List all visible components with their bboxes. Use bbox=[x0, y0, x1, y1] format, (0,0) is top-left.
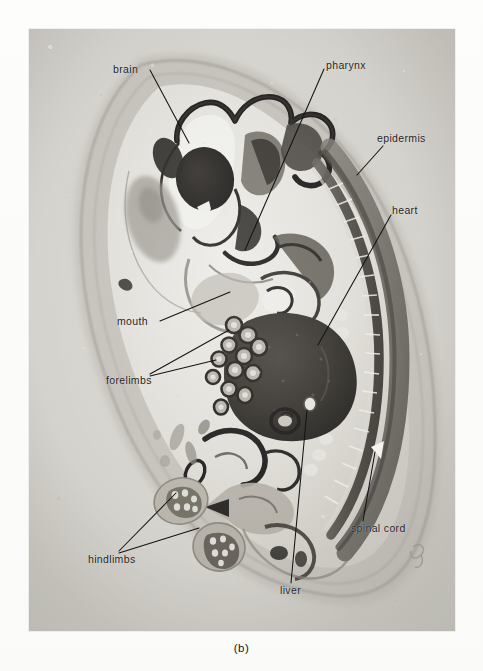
embryo-photomicrograph bbox=[29, 29, 455, 631]
label-mouth: mouth bbox=[117, 315, 148, 327]
label-forelimbs: forelimbs bbox=[106, 374, 152, 386]
label-epidermis: epidermis bbox=[377, 132, 426, 144]
panel-caption: (b) bbox=[0, 642, 483, 654]
specimen-section-drawing bbox=[29, 29, 455, 631]
label-liver: liver bbox=[280, 584, 301, 596]
label-heart: heart bbox=[392, 204, 418, 216]
label-spinal-cord: spinal cord bbox=[351, 522, 406, 534]
label-pharynx: pharynx bbox=[326, 59, 366, 71]
label-brain: brain bbox=[113, 63, 138, 75]
label-hindlimbs: hindlimbs bbox=[88, 553, 136, 565]
